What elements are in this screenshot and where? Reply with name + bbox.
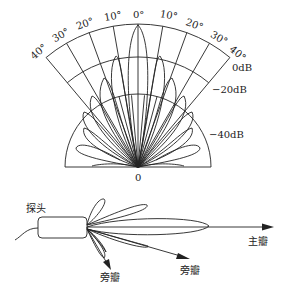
angle-label-right-40: 40°: [228, 43, 249, 63]
level-label-minus40db: −40dB: [209, 129, 244, 140]
origin-point: [136, 164, 140, 168]
angle-label-left-10: 10°: [103, 9, 122, 23]
side-lobe-arrowhead-1: [103, 259, 111, 270]
origin-label: 0: [135, 172, 141, 183]
probe-diagram: 探头 主瓣 旁瓣 旁瓣: [15, 199, 274, 283]
side-lobe-label-1: 旁瓣: [100, 271, 120, 283]
probe-side-lobe-upper-long: [87, 205, 147, 225]
probe-label: 探头: [26, 202, 46, 214]
side-lobe-label-2: 旁瓣: [180, 264, 200, 276]
angle-label-right-20: 20°: [184, 16, 204, 32]
level-labels: 0dB −20dB −40dB 0: [135, 62, 252, 183]
level-label-minus20db: −20dB: [212, 84, 247, 95]
level-label-0db: 0dB: [232, 62, 252, 73]
angle-label-left-40: 40°: [28, 42, 49, 62]
polar-grid: [46, 24, 230, 167]
figure: 40° 30° 20° 10° 0° 10° 20° 30° 40° 0dB −…: [0, 0, 282, 295]
diagram-canvas: 40° 30° 20° 10° 0° 10° 20° 30° 40° 0dB −…: [0, 0, 282, 295]
probe-body: [38, 217, 87, 238]
side-lobe-axis-2: [87, 229, 184, 257]
side-lobe-arrowhead-2: [176, 253, 190, 259]
main-lobe-label: 主瓣: [248, 236, 268, 247]
angle-label-left-20: 20°: [75, 15, 95, 31]
main-lobe-arrowhead: [262, 224, 274, 231]
angle-label-0: 0°: [133, 9, 144, 20]
angle-label-left-30: 30°: [50, 26, 71, 44]
probe-cable: [15, 228, 38, 240]
radial-line-left-40: [46, 58, 91, 112]
angle-label-right-10: 10°: [159, 8, 178, 22]
